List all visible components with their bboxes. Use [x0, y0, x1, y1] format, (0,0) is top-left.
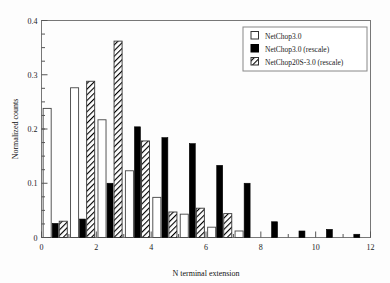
bar-hatch-x3 [141, 141, 149, 238]
x-tick-label: 0 [40, 243, 44, 252]
y-tick-label: 0.1 [28, 179, 38, 188]
x-tick-label: 4 [149, 243, 153, 252]
y-tick-label: 0.3 [28, 71, 38, 80]
bar-open-x4 [153, 197, 161, 237]
bar-hatch-x6 [224, 214, 232, 238]
bar-solid-x8 [272, 222, 278, 238]
bar-solid-x3 [134, 127, 140, 238]
bar-open-x1 [71, 88, 79, 238]
bar-solid-x2 [107, 183, 113, 237]
x-axis-title: N terminal extension [172, 269, 239, 278]
bar-solid-x6 [217, 165, 223, 237]
x-tick-label: 12 [367, 243, 375, 252]
y-tick-label: 0 [34, 234, 38, 243]
chart-legend: NetChop3.0NetChop3.0 (rescale)NetChop20S… [243, 27, 367, 71]
x-tick-label: 10 [312, 243, 320, 252]
bar-open-x7 [235, 231, 243, 238]
open-square-icon [251, 32, 259, 40]
bar-hatch-x0 [59, 221, 67, 237]
bar-solid-x11 [354, 234, 360, 237]
bar-hatch-x2 [114, 41, 122, 237]
bar-open-x6 [208, 227, 216, 237]
x-tick-label: 8 [259, 243, 263, 252]
bar-solid-x1 [80, 219, 86, 237]
bar-open-x2 [98, 120, 106, 238]
bar-hatch-x1 [87, 81, 95, 237]
bar-solid-x0 [52, 223, 58, 237]
x-tick-label: 2 [94, 243, 98, 252]
bar-solid-x9 [299, 231, 305, 238]
x-tick-label: 6 [204, 243, 208, 252]
bar-solid-x5 [189, 144, 195, 238]
legend-label-1: NetChop3.0 (rescale) [265, 45, 330, 54]
chart-figure: 00.10.20.30.4 024681012 N terminal exten… [0, 0, 390, 283]
bar-solid-x4 [162, 138, 168, 238]
bar-solid-x10 [326, 229, 332, 237]
filled-square-icon [251, 45, 259, 53]
bar-chart-svg: 00.10.20.30.4 024681012 N terminal exten… [0, 0, 390, 283]
y-tick-label: 0.2 [28, 125, 38, 134]
y-axis-title: Normalized counts [11, 99, 20, 160]
bar-solid-x7 [244, 183, 250, 237]
bar-open-x5 [180, 214, 188, 237]
legend-label-0: NetChop3.0 [265, 32, 302, 41]
y-tick-label: 0.4 [28, 17, 38, 26]
bar-hatch-x5 [196, 208, 204, 237]
hatched-square-icon [251, 58, 259, 66]
bar-open-x3 [125, 171, 133, 238]
legend-label-2: NetChop20S-3.0 (rescale) [265, 58, 344, 67]
bar-open-x0 [43, 108, 51, 237]
bar-hatch-x4 [169, 212, 177, 238]
